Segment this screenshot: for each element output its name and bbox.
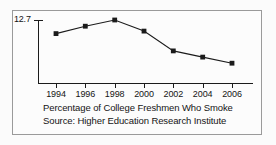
chart-caption-title: Percentage of College Freshmen Who Smoke — [43, 102, 233, 113]
data-point-marker — [171, 49, 176, 54]
chart-caption-source: Source: Higher Education Research Instit… — [43, 115, 226, 126]
data-point-marker — [200, 55, 205, 60]
series-line — [56, 20, 232, 63]
data-point-marker — [54, 31, 59, 36]
data-point-marker — [230, 61, 235, 66]
figure-frame: 12.7 1994199619982000200220042006 Percen… — [12, 10, 262, 135]
data-point-marker — [83, 24, 88, 29]
data-point-marker — [142, 29, 147, 34]
data-point-marker — [112, 18, 117, 23]
